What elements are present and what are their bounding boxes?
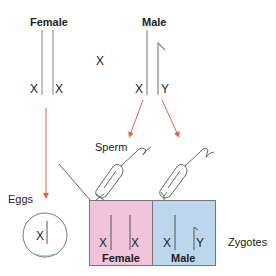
sperm-x-icon: [96, 147, 151, 200]
sperm-label: Sperm: [95, 141, 127, 153]
zygote-male-sex-label: Male: [171, 252, 195, 264]
arrow-to-sperm-x-icon: [130, 100, 143, 135]
cross-symbol: X: [96, 55, 104, 67]
zygote-male-left-label: X: [163, 237, 171, 249]
zygote-female-sex-label: Female: [102, 252, 140, 264]
zygotes-label: Zygotes: [228, 236, 267, 248]
sex-determination-diagram: Female X X X Male X Y Eggs X Sperm X X F…: [0, 0, 276, 276]
zygote-female-right-label: X: [131, 237, 139, 249]
egg-icon: [23, 213, 67, 257]
eggs-label: Eggs: [8, 193, 33, 205]
egg-chromosome-label: X: [36, 230, 44, 242]
zygote-female-left-label: X: [99, 237, 107, 249]
female-left-chromosome-label: X: [30, 83, 38, 95]
male-parent-title: Male: [142, 16, 166, 28]
female-chromosomes-icon: [42, 30, 53, 95]
female-parent-title: Female: [30, 16, 68, 28]
male-left-chromosome-label: X: [135, 83, 143, 95]
zygote-male-right-label: Y: [196, 237, 204, 249]
male-right-chromosome-label: Y: [161, 83, 169, 95]
sperm-y-icon: [160, 148, 214, 200]
arrow-to-sperm-y-icon: [162, 100, 178, 135]
female-right-chromosome-label: X: [55, 83, 63, 95]
